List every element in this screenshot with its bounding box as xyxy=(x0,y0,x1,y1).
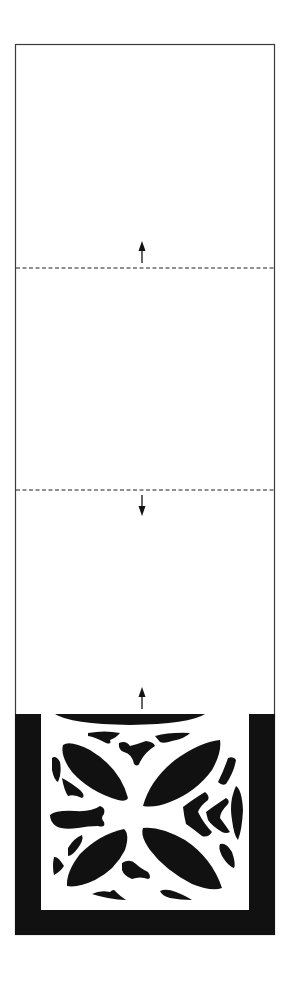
folding-diagram xyxy=(0,0,298,984)
